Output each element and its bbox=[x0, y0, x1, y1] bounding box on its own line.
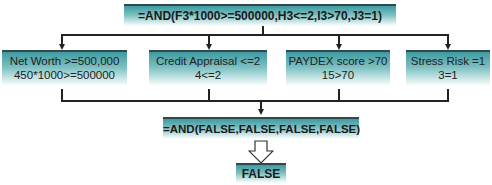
condition-box-credit-appraisal: Credit Appraisal <=2 4<=2 bbox=[149, 50, 267, 86]
condition-label: Stress Risk =1 bbox=[406, 52, 490, 68]
top-formula-text: =AND(F3*1000>=500000,H3<=2,I3>70,J3=1) bbox=[124, 6, 396, 24]
top-formula-box: =AND(F3*1000>=500000,H3<=2,I3>70,J3=1) bbox=[124, 4, 396, 26]
condition-label: Net Worth >=500,000 bbox=[2, 52, 127, 68]
condition-label: PAYDEX score >70 bbox=[286, 52, 390, 68]
condition-evaluation: 15>70 bbox=[286, 68, 390, 82]
result-text: FALSE bbox=[236, 165, 286, 182]
condition-evaluation: 450*1000>=500000 bbox=[2, 68, 127, 82]
condition-evaluation: 4<=2 bbox=[149, 68, 267, 82]
arrow-down-icon bbox=[258, 109, 264, 115]
connector-top-horizontal bbox=[61, 34, 449, 36]
result-box: FALSE bbox=[236, 163, 286, 183]
condition-evaluation: 3=1 bbox=[406, 68, 490, 82]
condition-box-net-worth: Net Worth >=500,000 450*1000>=500000 bbox=[2, 50, 127, 86]
evaluated-formula-text: =AND(FALSE,FALSE,FALSE,FALSE) bbox=[163, 119, 359, 137]
connector-bottom-horizontal bbox=[61, 100, 449, 102]
evaluated-formula-box: =AND(FALSE,FALSE,FALSE,FALSE) bbox=[163, 117, 359, 139]
condition-box-paydex: PAYDEX score >70 15>70 bbox=[286, 50, 390, 86]
condition-box-stress-risk: Stress Risk =1 3=1 bbox=[406, 50, 490, 86]
hollow-arrow-down-icon bbox=[248, 140, 274, 164]
condition-label: Credit Appraisal <=2 bbox=[149, 52, 267, 68]
